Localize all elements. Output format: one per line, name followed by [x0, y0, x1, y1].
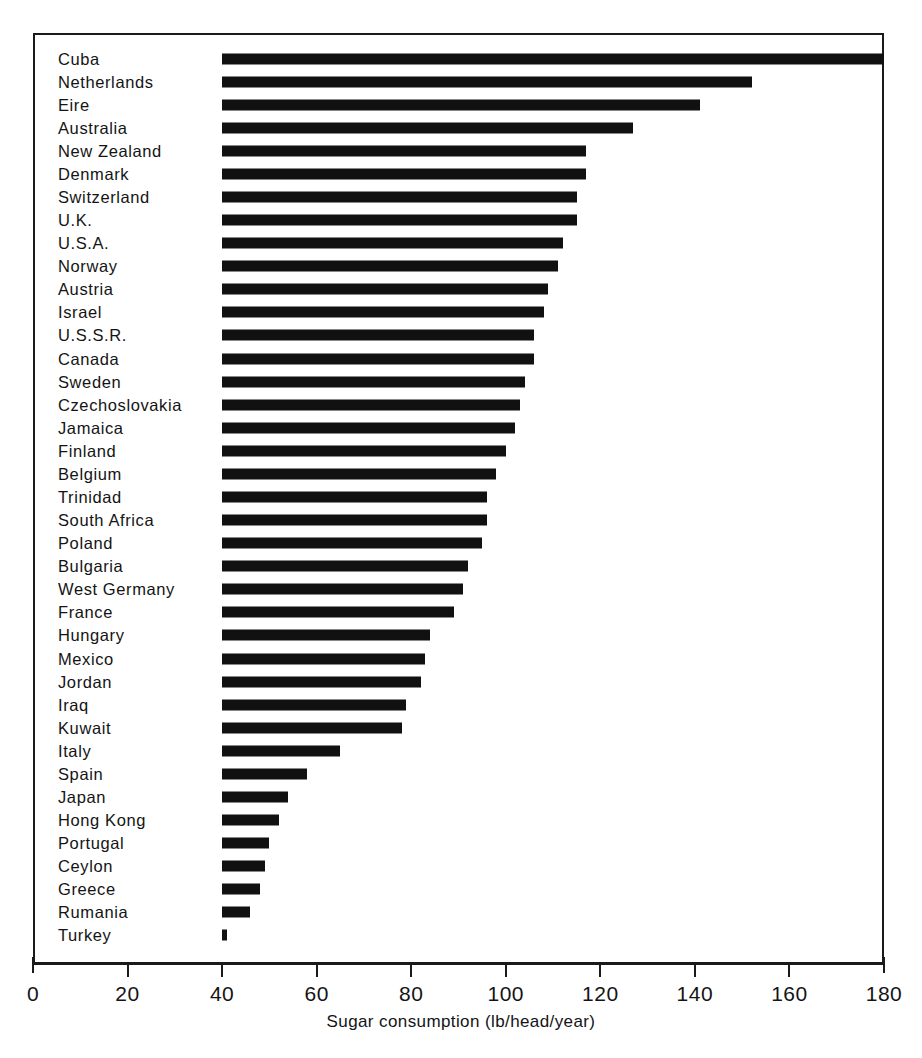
x-axis-tick	[694, 965, 696, 977]
bar-row: Hong Kong	[33, 809, 884, 832]
x-axis-tick-label: 100	[487, 982, 524, 1006]
bar-track	[33, 901, 884, 924]
x-axis-title: Sugar consumption (lb/head/year)	[0, 1012, 922, 1032]
bar-track	[33, 278, 884, 301]
bar	[222, 168, 586, 179]
bar	[222, 722, 402, 733]
bar-label: Jamaica	[58, 418, 124, 437]
bar-row: Iraq	[33, 693, 884, 716]
x-axis-tick	[505, 965, 507, 977]
bar-row: Ceylon	[33, 855, 884, 878]
bar-row: Austria	[33, 278, 884, 301]
bar-track	[33, 324, 884, 347]
bar-track	[33, 162, 884, 185]
bar-label: Canada	[58, 349, 119, 368]
bar-track	[33, 532, 884, 555]
bar-track	[33, 647, 884, 670]
x-axis-tick-label: 40	[210, 982, 234, 1006]
bar-row: Australia	[33, 116, 884, 139]
x-axis-tick	[883, 957, 885, 973]
bar-track	[33, 624, 884, 647]
bar-row: Rumania	[33, 901, 884, 924]
bar	[222, 468, 496, 479]
bar-track	[33, 785, 884, 808]
bar	[222, 584, 463, 595]
bar-row: Czechoslovakia	[33, 393, 884, 416]
bar	[222, 445, 506, 456]
bar	[222, 191, 577, 202]
bar-row: West Germany	[33, 578, 884, 601]
bar-label: U.K.	[58, 211, 93, 230]
bar	[222, 353, 534, 364]
bar	[222, 76, 752, 87]
bar-track	[33, 693, 884, 716]
bar-track	[33, 601, 884, 624]
x-axis-tick-label: 160	[771, 982, 808, 1006]
bar-track	[33, 301, 884, 324]
bar	[222, 630, 430, 641]
bar	[222, 284, 548, 295]
bar-row: Japan	[33, 785, 884, 808]
bar-label: Greece	[58, 880, 116, 899]
x-axis-tick-label: 60	[304, 982, 328, 1006]
bar-label: Denmark	[58, 164, 129, 183]
bar-label: Iraq	[58, 695, 89, 714]
bar	[222, 930, 227, 941]
bar-track	[33, 509, 884, 532]
bar-row: Cuba	[33, 47, 884, 70]
bar	[222, 884, 260, 895]
bar-label: Belgium	[58, 464, 122, 483]
bar-label: Czechoslovakia	[58, 395, 182, 414]
bar-track	[33, 462, 884, 485]
bar	[222, 768, 307, 779]
bar-track	[33, 93, 884, 116]
bar-track	[33, 255, 884, 278]
bar-label: Spain	[58, 764, 103, 783]
bar	[222, 791, 288, 802]
bar	[222, 561, 468, 572]
bar-track	[33, 185, 884, 208]
x-axis-tick-label: 20	[115, 982, 139, 1006]
bar-label: Kuwait	[58, 718, 111, 737]
bar-row: Norway	[33, 255, 884, 278]
bar-label: U.S.S.R.	[58, 326, 127, 345]
bar-label: France	[58, 603, 113, 622]
bar-label: Australia	[58, 118, 128, 137]
bar-row: Canada	[33, 347, 884, 370]
bar	[222, 907, 250, 918]
bar	[222, 399, 520, 410]
bar-label: Sweden	[58, 372, 121, 391]
bar	[222, 238, 562, 249]
bar-track	[33, 924, 884, 947]
bar-track	[33, 878, 884, 901]
bar-track	[33, 555, 884, 578]
bar	[222, 699, 406, 710]
bar	[222, 261, 558, 272]
x-axis-tick	[410, 965, 412, 977]
bar-rows-container: CubaNetherlandsEireAustraliaNew ZealandD…	[33, 47, 884, 947]
bar-row: South Africa	[33, 509, 884, 532]
bar	[222, 215, 577, 226]
x-axis-tick	[788, 965, 790, 977]
bar-track	[33, 809, 884, 832]
x-axis-tick	[599, 965, 601, 977]
x-axis-tick-label: 0	[27, 982, 39, 1006]
bar-row: Poland	[33, 532, 884, 555]
bar-label: Mexico	[58, 649, 114, 668]
bar-row: France	[33, 601, 884, 624]
bar-label: Poland	[58, 534, 113, 553]
x-axis-tick	[127, 965, 129, 977]
bar-row: Mexico	[33, 647, 884, 670]
x-axis-tick-label: 120	[582, 982, 619, 1006]
bar-label: New Zealand	[58, 141, 162, 160]
x-axis-tick	[221, 965, 223, 977]
bar-row: Jamaica	[33, 416, 884, 439]
bar-track	[33, 370, 884, 393]
bar	[222, 376, 525, 387]
bar-label: Japan	[58, 787, 106, 806]
x-axis-tick-label: 180	[866, 982, 903, 1006]
x-axis-line	[33, 962, 884, 965]
x-axis-tick	[32, 957, 34, 973]
bar	[222, 653, 425, 664]
bar-row: Greece	[33, 878, 884, 901]
